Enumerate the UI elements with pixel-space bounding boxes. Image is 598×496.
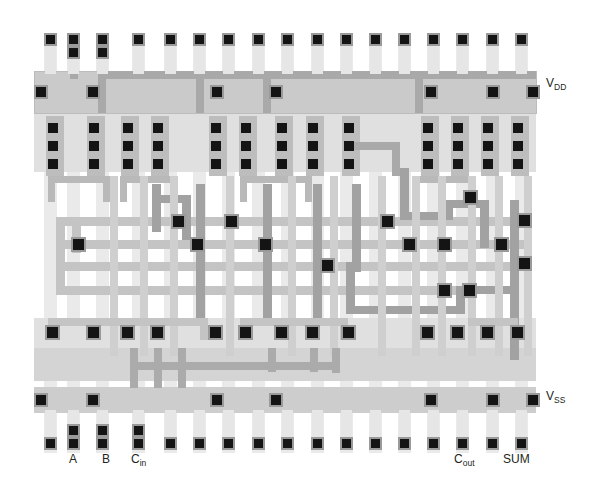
label-cout: Cout	[454, 453, 475, 465]
layout-figure: VDD VSS A B Cin Cout SUM	[0, 0, 598, 496]
label-vdd: VDD	[546, 77, 566, 89]
label-sum: SUM	[503, 453, 530, 465]
mask-layout-canvas	[0, 0, 598, 496]
label-b: B	[102, 453, 110, 465]
label-a: A	[69, 453, 77, 465]
label-vss: VSS	[546, 390, 565, 402]
vss-rail	[34, 387, 536, 413]
label-cin: Cin	[131, 453, 146, 465]
